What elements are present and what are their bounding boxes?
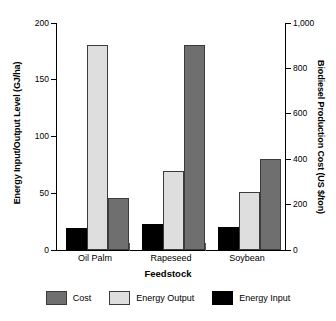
bar-energy-input [142, 224, 163, 250]
legend-label: Cost [73, 293, 92, 303]
y-axis-right-tick-label: 800 [293, 64, 333, 73]
plot-area [57, 23, 285, 250]
y-axis-left-tick-label: 50 [9, 189, 49, 198]
x-axis-category-label: Soybean [209, 253, 285, 263]
bar-energy-input [66, 228, 87, 250]
legend-item: Cost [46, 291, 92, 305]
y-axis-right-tick [286, 250, 291, 251]
y-axis-left-tick-label: 150 [9, 75, 49, 84]
legend-swatch-cost [46, 291, 67, 305]
bar-energy-output [163, 171, 184, 250]
chart-legend: CostEnergy OutputEnergy Input [0, 291, 336, 305]
legend-item: Energy Output [109, 291, 194, 305]
legend-label: Energy Output [136, 293, 194, 303]
bar-cost [108, 198, 129, 250]
y-axis-right-tick [286, 113, 291, 114]
x-axis-group-tick [205, 243, 206, 251]
y-axis-left-tick-label: 0 [9, 246, 49, 255]
y-axis-left-tick-label: 200 [9, 19, 49, 28]
y-axis-left-tick [51, 23, 56, 24]
y-axis-left-tick [51, 250, 56, 251]
bar-energy-input [218, 227, 239, 250]
x-axis-category-label: Oil Palm [57, 253, 133, 263]
x-axis-category-label: Rapeseed [133, 253, 209, 263]
y-axis-right-line [285, 23, 286, 251]
y-axis-right-tick-label: 0 [293, 246, 333, 255]
y-axis-right-tick-label: 1,000 [293, 19, 333, 28]
y-axis-right-tick [286, 204, 291, 205]
legend-item: Energy Input [212, 291, 290, 305]
y-axis-right-tick-label: 400 [293, 155, 333, 164]
y-axis-right-tick-label: 200 [293, 200, 333, 209]
legend-swatch-output [109, 291, 130, 305]
bar-energy-output [87, 45, 108, 250]
y-axis-right-tick [286, 159, 291, 160]
x-axis-group-tick [129, 243, 130, 251]
legend-swatch-input [212, 291, 233, 305]
bar-chart: Energy Input/Output Level (GJ/ha) Biodie… [0, 0, 336, 321]
legend-label: Energy Input [239, 293, 290, 303]
x-axis-line [56, 250, 287, 251]
y-axis-left-tick [51, 193, 56, 194]
y-axis-left-tick [51, 136, 56, 137]
y-axis-left-tick-label: 100 [9, 132, 49, 141]
bar-cost [184, 45, 205, 250]
x-axis-title: Feedstock [0, 268, 336, 279]
y-axis-right-tick-label: 600 [293, 109, 333, 118]
y-axis-right-tick [286, 23, 291, 24]
y-axis-left-tick [51, 79, 56, 80]
bar-energy-output [239, 192, 260, 250]
y-axis-right-tick [286, 68, 291, 69]
bar-cost [260, 159, 281, 250]
